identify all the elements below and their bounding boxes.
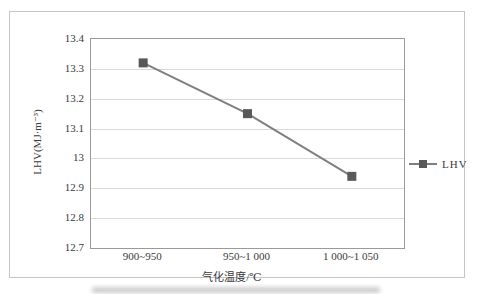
data-point-square-marker <box>347 172 356 181</box>
legend-label: LHV <box>442 158 468 170</box>
series-line <box>143 63 352 176</box>
legend: LHV <box>409 158 468 170</box>
y-tick-label: 13.1 <box>50 122 84 134</box>
x-axis-title: 气化温度/℃ <box>202 268 261 284</box>
data-point-square-marker <box>243 109 252 118</box>
y-tick-label: 12.8 <box>50 211 84 223</box>
y-tick-label: 13 <box>50 151 84 163</box>
y-tick-label: 12.7 <box>50 241 84 253</box>
y-axis-title: LHV(MJ·m⁻³) <box>31 109 44 174</box>
legend-line-sample <box>409 163 437 165</box>
x-tick-label: 1 000~1 050 <box>323 250 378 262</box>
plot-area <box>90 38 405 249</box>
y-tick-label: 12.9 <box>50 181 84 193</box>
y-tick-label: 13.2 <box>50 92 84 104</box>
x-tick-label: 900~950 <box>123 250 162 262</box>
y-tick-label: 13.3 <box>50 62 84 74</box>
legend-square-marker-icon <box>419 160 427 168</box>
x-tick-label: 950~1 000 <box>223 250 270 262</box>
lhv-line-series <box>91 39 404 248</box>
chart-screenshot: LHV(MJ·m⁻³) 13.413.313.213.11312.912.812… <box>0 0 477 294</box>
cutoff-caption-fragment <box>92 287 380 293</box>
y-tick-label: 13.4 <box>50 32 84 44</box>
chart-frame: LHV(MJ·m⁻³) 13.413.313.213.11312.912.812… <box>9 11 465 278</box>
data-point-square-marker <box>139 58 148 67</box>
